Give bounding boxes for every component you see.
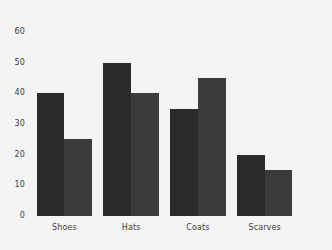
y-axis: 0102030405060 — [0, 0, 31, 250]
bar-chart: 0102030405060 ShoesHatsCoatsScarves — [0, 0, 332, 250]
bar[interactable] — [198, 78, 226, 216]
x-axis-tick-label: Shoes — [52, 224, 77, 232]
x-axis-tick-label: Scarves — [249, 224, 281, 232]
bar[interactable] — [265, 170, 293, 216]
bar[interactable] — [64, 139, 92, 216]
y-axis-tick-label: 40 — [15, 89, 25, 97]
x-axis-tick-label: Coats — [186, 224, 209, 232]
y-axis-tick-label: 30 — [15, 120, 25, 128]
y-axis-tick-label: 50 — [15, 59, 25, 67]
bar[interactable] — [103, 63, 131, 216]
x-axis-tick-label: Hats — [122, 224, 141, 232]
y-axis-tick-label: 20 — [15, 151, 25, 159]
y-axis-tick-label: 0 — [20, 212, 25, 220]
y-axis-tick-label: 60 — [15, 28, 25, 36]
x-axis: ShoesHatsCoatsScarves — [31, 216, 298, 250]
bars-layer — [31, 0, 298, 216]
bar[interactable] — [170, 109, 198, 216]
y-axis-tick-label: 10 — [15, 181, 25, 189]
bar[interactable] — [37, 93, 65, 216]
bar[interactable] — [237, 155, 265, 216]
bar[interactable] — [131, 93, 159, 216]
